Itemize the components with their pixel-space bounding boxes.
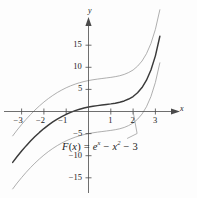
curve-family-2 (13, 63, 160, 189)
x-tick-label: −1 (58, 115, 67, 125)
curve-family-0 (13, 10, 160, 136)
function-equation-annotation: F(x) = ex − x2 − 3 (62, 139, 138, 152)
x-tick-label: 2 (131, 115, 135, 125)
y-axis-arrowhead (85, 17, 91, 26)
x-axis-arrowhead (171, 108, 180, 114)
y-tick-label: 15 (73, 39, 82, 49)
x-tick-label: 1 (108, 115, 112, 125)
y-tick-label: 10 (73, 61, 82, 71)
equation-equals: = (84, 141, 90, 152)
equation-function-name: F (62, 141, 69, 152)
axes-group (4, 17, 180, 193)
x-axis-label: x (180, 104, 184, 113)
equation-e-exponent: x (98, 139, 101, 146)
equation-minus-two: − (124, 141, 130, 152)
equation-close-paren: ) (77, 141, 81, 152)
equation-x-exponent: 2 (117, 139, 120, 146)
x-tick-label: −3 (14, 115, 23, 125)
equation-constant: 3 (133, 141, 138, 152)
function-graph-figure: y x −3−2−112315105−5−10−15 F(x) = ex − x… (0, 0, 197, 198)
y-tick-label: −15 (69, 172, 82, 182)
equation-minus-one: − (103, 141, 109, 152)
y-axis-label: y (88, 6, 92, 15)
x-tick-label: −2 (36, 115, 45, 125)
y-tick-label: −5 (73, 128, 82, 138)
graph-canvas (0, 0, 197, 198)
curve-family-group (13, 10, 160, 189)
x-tick-label: 3 (153, 115, 157, 125)
y-tick-label: 5 (78, 83, 82, 93)
